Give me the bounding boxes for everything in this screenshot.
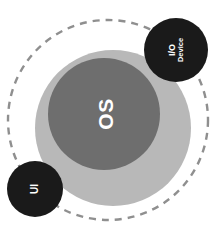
os-circle[interactable] [48, 58, 160, 170]
diagram-svg [0, 0, 213, 241]
io-device-circle[interactable] [144, 18, 208, 82]
ui-circle[interactable] [7, 161, 63, 217]
diagram-canvas: OS I/O Device UI [0, 0, 213, 241]
